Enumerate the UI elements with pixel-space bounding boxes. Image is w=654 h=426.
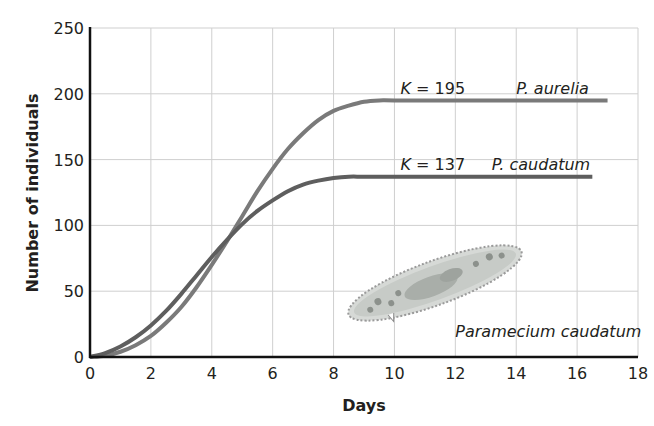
y-tick-label: 50 [64, 282, 84, 301]
x-tick-label: 16 [567, 364, 587, 383]
y-axis-title: Number of individuals [23, 93, 42, 292]
x-tick-label: 10 [384, 364, 404, 383]
x-tick-label: 12 [445, 364, 465, 383]
data-series [90, 100, 608, 357]
annotation: P. aurelia [516, 79, 589, 98]
annotation: K = 137 [401, 155, 466, 174]
series-line-p-aurelia [90, 100, 608, 357]
y-tick-label: 250 [53, 19, 84, 38]
annotation: P. caudatum [492, 155, 590, 174]
y-tick-label: 150 [53, 151, 84, 170]
annotation: K = 195 [401, 79, 466, 98]
x-tick-label: 6 [268, 364, 278, 383]
paramecium-illustration [341, 231, 529, 335]
x-axis-title: Days [342, 396, 386, 415]
y-tick-label: 100 [53, 216, 84, 235]
y-tick-label: 200 [53, 85, 84, 104]
x-tick-label: 18 [628, 364, 648, 383]
logistic-growth-chart: 024681012141618050100150200250 K = 195P.… [0, 0, 654, 426]
x-tick-label: 0 [85, 364, 95, 383]
x-tick-label: 4 [207, 364, 217, 383]
x-tick-label: 8 [328, 364, 338, 383]
x-tick-label: 2 [146, 364, 156, 383]
x-tick-label: 14 [506, 364, 526, 383]
annotation: Paramecium caudatum [455, 322, 641, 341]
y-tick-label: 0 [74, 348, 84, 367]
